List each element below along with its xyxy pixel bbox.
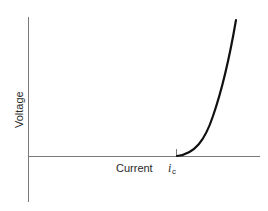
- critical-current-symbol: i: [168, 161, 171, 175]
- chart: Current Voltage i c: [0, 0, 268, 211]
- critical-current-subscript: c: [172, 167, 176, 176]
- y-axis-label: Voltage: [13, 91, 25, 128]
- x-axis-label: Current: [116, 162, 153, 174]
- voltage-current-curve: [177, 20, 236, 156]
